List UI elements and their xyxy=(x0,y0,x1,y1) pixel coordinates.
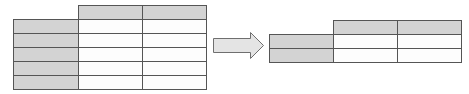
table-cell xyxy=(79,62,143,76)
table-cell xyxy=(79,48,143,62)
column-header-cell xyxy=(398,21,462,35)
table-cell xyxy=(398,35,462,49)
table-cell xyxy=(79,34,143,48)
arrow-shape xyxy=(214,33,264,59)
row-header-cell xyxy=(14,20,79,34)
table-cell xyxy=(79,20,143,34)
table-cell xyxy=(334,49,398,63)
row-header-cell xyxy=(14,62,79,76)
table-cell xyxy=(334,35,398,49)
row-header-cell xyxy=(14,48,79,62)
diagram-canvas xyxy=(0,0,469,94)
table-cell xyxy=(398,49,462,63)
row-header-cell xyxy=(270,49,334,63)
row-header-cell xyxy=(14,34,79,48)
column-header-cell xyxy=(79,6,143,20)
source-table xyxy=(14,6,207,90)
target-table xyxy=(270,21,462,63)
table-cell xyxy=(143,76,207,90)
right-arrow-icon xyxy=(214,33,264,59)
table-cell xyxy=(79,76,143,90)
row-header-cell xyxy=(270,35,334,49)
row-header-cell xyxy=(14,76,79,90)
table-cell xyxy=(143,62,207,76)
table-cell xyxy=(143,34,207,48)
table-cell xyxy=(143,20,207,34)
column-header-cell xyxy=(143,6,207,20)
column-header-cell xyxy=(334,21,398,35)
table-cell xyxy=(143,48,207,62)
